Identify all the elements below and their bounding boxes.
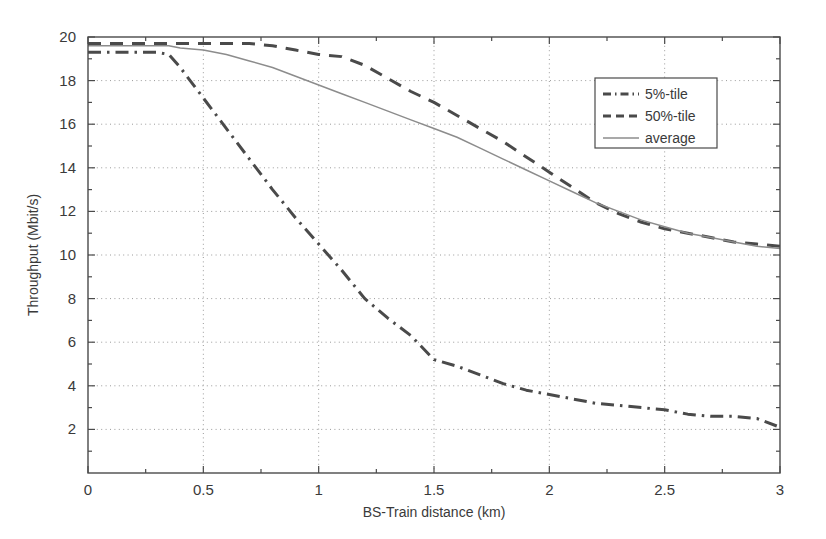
y-tick-label: 18 <box>59 72 76 89</box>
y-axis-title: Throughput (Mbit/s) <box>25 194 41 316</box>
x-tick-label: 1.5 <box>424 481 445 498</box>
x-axis-title: BS-Train distance (km) <box>363 504 506 520</box>
y-tick-label: 6 <box>68 333 76 350</box>
y-tick-label: 20 <box>59 28 76 45</box>
legend-label-50-tile: 50%-tile <box>645 108 696 124</box>
y-tick-label: 4 <box>68 377 76 394</box>
throughput-line-chart: 246810121416182000.511.522.53 BS-Train d… <box>0 0 826 539</box>
chart-figure: 246810121416182000.511.522.53 BS-Train d… <box>0 0 826 539</box>
x-tick-label: 2 <box>545 481 553 498</box>
y-tick-label: 10 <box>59 246 76 263</box>
legend: 5%-tile50%-tileaverage <box>595 78 717 148</box>
x-tick-label: 2.5 <box>654 481 675 498</box>
y-tick-label: 8 <box>68 290 76 307</box>
x-tick-label: 0.5 <box>193 481 214 498</box>
y-tick-label: 12 <box>59 202 76 219</box>
x-tick-label: 1 <box>314 481 322 498</box>
y-tick-label: 16 <box>59 115 76 132</box>
x-tick-label: 0 <box>84 481 92 498</box>
legend-label-average: average <box>645 130 696 146</box>
y-tick-label: 14 <box>59 159 76 176</box>
legend-label-5-tile: 5%-tile <box>645 86 688 102</box>
y-tick-label: 2 <box>68 420 76 437</box>
x-tick-label: 3 <box>776 481 784 498</box>
